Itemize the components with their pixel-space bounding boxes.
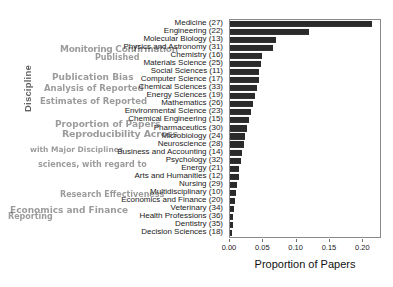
x-tick-mark — [262, 239, 263, 242]
bar — [230, 61, 261, 67]
bar — [230, 158, 241, 164]
x-tick-mark — [229, 239, 230, 242]
bar-row — [230, 20, 380, 28]
bar-row — [230, 140, 380, 148]
bar — [230, 69, 259, 75]
x-tick-mark — [329, 239, 330, 242]
plot-area — [229, 19, 381, 238]
bar-row — [230, 68, 380, 76]
x-tick-label: 0.10 — [288, 243, 303, 252]
bar — [230, 133, 245, 139]
bar-row — [230, 213, 380, 221]
x-tick-label: 0.15 — [322, 243, 337, 252]
bar-row — [230, 44, 380, 52]
y-axis-tick-labels: Medicine (27)Engineering (22)Molecular B… — [60, 19, 227, 238]
bar-row — [230, 181, 380, 189]
bar — [230, 93, 255, 99]
bar-row — [230, 92, 380, 100]
bar — [230, 77, 259, 83]
bar-row — [230, 165, 380, 173]
bar-row — [230, 100, 380, 108]
bar-row — [230, 157, 380, 165]
bar — [230, 214, 233, 220]
bar — [230, 174, 239, 180]
bar-row — [230, 76, 380, 84]
bar — [230, 149, 242, 155]
bar — [230, 45, 273, 51]
bar — [230, 141, 244, 147]
bar-row — [230, 28, 380, 36]
bar-row — [230, 108, 380, 116]
y-axis-title: Discipline — [22, 42, 33, 112]
bar — [230, 37, 276, 43]
bar — [230, 190, 236, 196]
bar-row — [230, 197, 380, 205]
bar — [230, 85, 257, 91]
bar-row — [230, 52, 380, 60]
bar-row — [230, 36, 380, 44]
chart-screenshot: Monitoring Confirmation Published Public… — [0, 0, 393, 287]
bar-row — [230, 124, 380, 132]
bar-row — [230, 189, 380, 197]
y-tick-label: Decision Sciences (18) — [141, 228, 223, 236]
bar-row — [230, 205, 380, 213]
x-tick-label: 0.20 — [355, 243, 370, 252]
bar-row — [230, 132, 380, 140]
bar — [230, 182, 237, 188]
bar-row — [230, 84, 380, 92]
bar — [230, 125, 247, 131]
x-tick-mark — [296, 239, 297, 242]
bar — [230, 101, 253, 107]
bar — [230, 198, 235, 204]
bar-row — [230, 149, 380, 157]
x-axis-ticks: 0.000.050.100.150.20 — [229, 239, 381, 251]
bar — [230, 206, 234, 212]
bar — [230, 117, 249, 123]
bar-row — [230, 173, 380, 181]
bar — [230, 29, 309, 35]
x-tick-label: 0.00 — [222, 243, 237, 252]
bar — [230, 53, 262, 59]
ghost-text: Reporting — [8, 212, 53, 221]
bar — [230, 222, 233, 228]
bar-row — [230, 116, 380, 124]
x-tick-label: 0.05 — [255, 243, 270, 252]
bar — [230, 166, 239, 172]
bar-row — [230, 229, 380, 237]
bar — [230, 21, 372, 27]
x-tick-mark — [362, 239, 363, 242]
x-axis-title: Proportion of Papers — [229, 258, 381, 270]
bar — [230, 109, 251, 115]
bar-row — [230, 60, 380, 68]
bar-series — [230, 20, 380, 237]
bar-row — [230, 221, 380, 229]
bar — [230, 230, 232, 236]
